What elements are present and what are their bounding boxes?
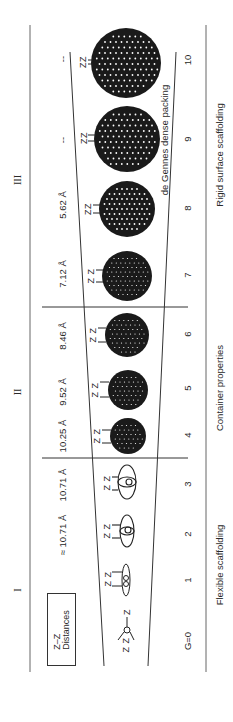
zz-label-g5: Z Z	[91, 383, 100, 398]
distance-g5: 9.52 Å	[58, 378, 68, 405]
generation-label-0: G=0	[183, 632, 193, 650]
generation-label-6: 6	[183, 331, 193, 336]
generation-label-8: 8	[183, 205, 193, 210]
generation-label-2: 2	[183, 531, 193, 536]
distance-g9: --	[58, 137, 68, 143]
zz-label-g7: Z Z	[87, 269, 96, 284]
generation-label-5: 5	[183, 385, 193, 390]
zz-label-g8: ZZ	[84, 203, 93, 215]
distance-g4: 10.25 Å	[58, 420, 68, 453]
distance-g6: 8.46 Å	[58, 322, 68, 349]
generation-label-1: 1	[183, 577, 193, 582]
zz-label-g6: Z Z	[89, 328, 98, 343]
dendrimer-diagram-canvas	[0, 0, 233, 722]
legend-line-2: Distances	[62, 610, 71, 650]
region-I-numeral: I	[13, 588, 23, 591]
zz-label-g4: Z Z	[93, 429, 102, 444]
legend-box: Z–Z Distances	[47, 593, 76, 666]
zz-label-g0-bottom: Z Z	[122, 638, 131, 653]
zz-label-g10: ZZ	[79, 56, 88, 68]
dendrimer-g6-icon	[105, 313, 149, 357]
region-III-title: Rigid surface scaffolding	[215, 103, 225, 206]
dendrimer-g9-icon	[94, 106, 160, 172]
distance-g2: ≈ 10.71 Å	[58, 515, 68, 556]
distance-g8: 5.62 Å	[58, 191, 68, 218]
generation-label-9: 9	[183, 136, 193, 141]
zz-label-g2: Z Z	[103, 524, 112, 539]
generation-label-4: 4	[183, 432, 193, 437]
legend-text: Z–Z Distances	[52, 610, 71, 650]
dendrimer-g3-icon	[112, 465, 136, 499]
zz-label-g9: ZZ	[80, 132, 89, 144]
distance-g10: --	[58, 56, 68, 62]
region-II-title: Container properties	[215, 345, 225, 431]
region-II-numeral: II	[13, 389, 23, 396]
dendrimer-g10-icon	[91, 28, 161, 98]
generation-label-7: 7	[183, 272, 193, 277]
distance-g3: 10.71 Å	[58, 469, 68, 502]
generation-label-3: 3	[183, 481, 193, 486]
de-gennes-annotation: de Gennes dense packing	[160, 85, 170, 195]
dendrimer-g1-icon	[112, 564, 130, 596]
distance-g7: 7.12 Å	[58, 260, 68, 287]
zz-label-g3: Z Z	[103, 476, 112, 491]
dendrimer-g4-icon	[110, 418, 146, 454]
zz-label-g0-top: Z	[123, 609, 132, 615]
region-III-numeral: III	[13, 175, 23, 185]
zz-label-g1: Z Z	[104, 572, 113, 587]
generation-label-10: 10	[183, 55, 193, 66]
dendrimer-g2-icon	[112, 515, 134, 547]
dendrimer-g5-icon	[108, 370, 148, 410]
region-I-title: Flexible scaffolding	[215, 525, 225, 606]
